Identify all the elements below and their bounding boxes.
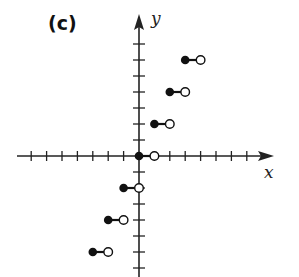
closed-dot-icon (135, 152, 144, 161)
closed-dot-icon (181, 56, 190, 65)
step-segment (135, 152, 159, 161)
x-axis-label: x (264, 162, 274, 182)
step-function-plot: x y (0, 0, 299, 277)
step-segment (104, 216, 128, 225)
closed-dot-icon (104, 216, 113, 225)
closed-dot-icon (150, 120, 159, 129)
step-segment (119, 184, 143, 193)
open-dot-icon (119, 216, 128, 225)
open-dot-icon (181, 88, 190, 97)
step-segment (181, 56, 205, 65)
open-dot-icon (166, 120, 175, 129)
step-segment (166, 88, 190, 97)
closed-dot-icon (166, 88, 175, 97)
open-dot-icon (135, 184, 144, 193)
closed-dot-icon (119, 184, 128, 193)
y-axis-label: y (150, 8, 161, 28)
open-dot-icon (104, 248, 113, 257)
step-segment (89, 248, 113, 257)
open-dot-icon (196, 56, 205, 65)
step-segment (150, 120, 174, 129)
axes (17, 14, 274, 277)
closed-dot-icon (89, 248, 98, 257)
open-dot-icon (150, 152, 159, 161)
